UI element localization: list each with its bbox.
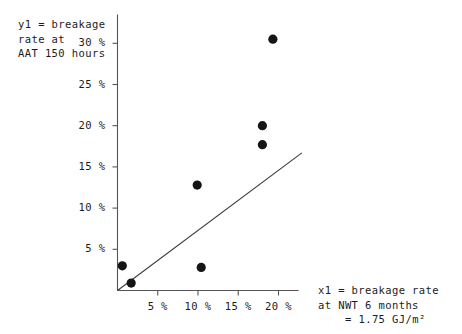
scatter-plot-figure: y1 = breakage rate at AAT 150 hours x1 =…: [0, 0, 462, 334]
x-axis-tick-label: 15 %: [216, 300, 260, 312]
x-axis-tick-label: 5 %: [136, 300, 180, 312]
y-axis-tick-label: 25 %: [60, 78, 106, 90]
data-point-marker: [197, 263, 206, 272]
x-axis-tick-label: 10 %: [176, 300, 220, 312]
data-point-marker: [258, 121, 267, 130]
data-point-marker: [268, 35, 277, 44]
x-axis-tick-label: 20 %: [257, 300, 301, 312]
y-axis-tick-label: 30 %: [60, 36, 106, 48]
trend-line: [118, 153, 302, 291]
data-point-marker: [193, 180, 202, 189]
y-axis-tick-label: 15 %: [60, 160, 106, 172]
data-point-marker: [127, 278, 136, 287]
y-axis-tick-label: 20 %: [60, 119, 106, 131]
data-point-marker: [118, 261, 127, 270]
y-axis-tick-label: 5 %: [60, 242, 106, 254]
y-axis-tick-label: 10 %: [60, 201, 106, 213]
data-point-marker: [258, 140, 267, 149]
